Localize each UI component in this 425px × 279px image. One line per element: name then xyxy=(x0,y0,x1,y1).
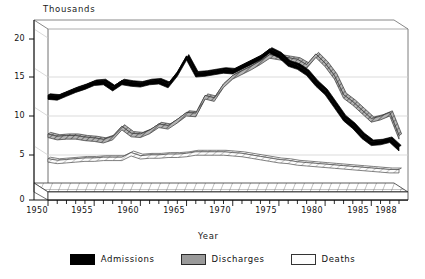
x-tick-label-1950: 1950 xyxy=(22,206,52,215)
legend-item-discharges: Discharges xyxy=(181,254,265,265)
legend-item-deaths: Deaths xyxy=(291,254,356,265)
legend-swatch-discharges xyxy=(181,254,206,265)
y-tick-label-0: 0 xyxy=(5,195,25,204)
x-tick-label-1955: 1955 xyxy=(67,206,97,215)
legend-swatch-admissions xyxy=(70,254,95,265)
legend-item-admissions: Admissions xyxy=(70,254,155,265)
y-axis-ticks xyxy=(29,39,34,200)
x-tick-label-1975: 1975 xyxy=(251,206,281,215)
y-tick-label-15: 15 xyxy=(5,72,25,81)
x-axis-title: Year xyxy=(198,231,219,241)
legend-swatch-deaths xyxy=(291,254,316,265)
x-tick-label-1988: 1988 xyxy=(371,206,401,215)
y-tick-label-5: 5 xyxy=(5,150,25,159)
chart-container: Thousands xyxy=(0,0,425,279)
y-tick-label-10: 10 xyxy=(5,111,25,120)
chart-legend: Admissions Discharges Deaths xyxy=(0,248,425,270)
x-tick-label-1970: 1970 xyxy=(205,206,235,215)
x-tick-label-1960: 1960 xyxy=(113,206,143,215)
legend-label-discharges: Discharges xyxy=(212,254,265,264)
legend-label-admissions: Admissions xyxy=(101,254,155,264)
plot-floor xyxy=(34,183,408,200)
y-axis-title: Thousands xyxy=(43,4,95,14)
x-tick-label-1965: 1965 xyxy=(159,206,189,215)
y-tick-label-20: 20 xyxy=(5,34,25,43)
x-tick-label-1980: 1980 xyxy=(297,206,327,215)
legend-label-deaths: Deaths xyxy=(322,254,356,264)
x-tick-label-1985: 1985 xyxy=(343,206,373,215)
